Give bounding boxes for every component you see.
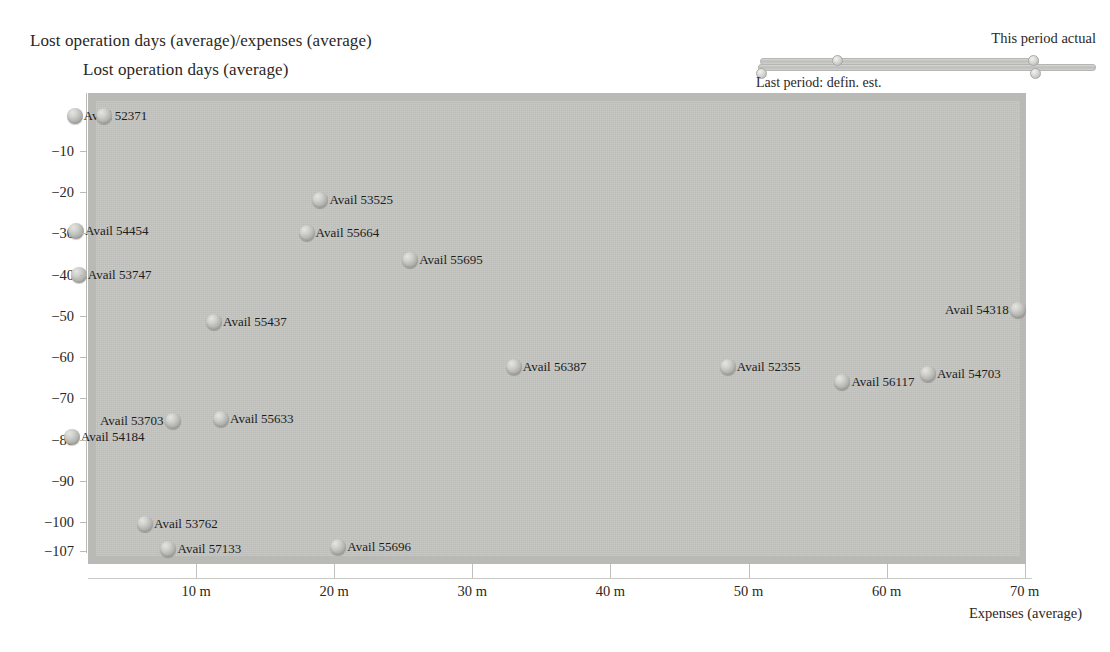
- scatter-point-label: Avail 53525: [329, 192, 393, 208]
- scatter-marker-icon: [96, 108, 112, 124]
- scatter-marker-icon: [402, 252, 418, 268]
- x-axis-tick-label: 40 m: [596, 583, 625, 600]
- scatter-point[interactable]: Avail 55437: [206, 314, 222, 330]
- scatter-marker-icon: [506, 359, 522, 375]
- scatter-marker-icon: [299, 225, 315, 241]
- x-axis-tick-label: 60 m: [872, 583, 901, 600]
- scatter-marker-icon: [67, 108, 83, 124]
- scatter-marker-icon: [137, 516, 153, 532]
- y-axis-tick-label: −90: [51, 472, 74, 489]
- x-axis-tick: [334, 564, 335, 578]
- chart-title: Lost operation days (average)/expenses (…: [30, 31, 372, 51]
- scatter-point[interactable]: Avail 56387: [506, 359, 522, 375]
- y-axis-tick: [80, 522, 87, 523]
- x-axis-tick: [196, 564, 197, 578]
- scatter-point-label: Avail 55437: [223, 314, 287, 330]
- scatter-point-label: Avail 52355: [737, 359, 801, 375]
- plot-area[interactable]: Avail 52371Avail 53525Avail 54454Avail 5…: [88, 93, 1026, 564]
- scatter-marker-icon: [920, 366, 936, 382]
- y-axis-tick: [80, 357, 87, 358]
- scatter-point-label: Avail 55633: [230, 411, 294, 427]
- scatter-marker-icon: [68, 223, 84, 239]
- scatter-marker-icon: [330, 539, 346, 555]
- scatter-point-label: Avail 52371: [84, 108, 148, 124]
- x-axis-tick: [749, 564, 750, 578]
- scatter-point[interactable]: Avail 53703: [165, 413, 181, 429]
- slider-handle-back-right[interactable]: [1030, 68, 1041, 79]
- slider-handle-front-right[interactable]: [1028, 55, 1039, 66]
- y-axis-line: [86, 93, 87, 553]
- scatter-point-label: Avail 56387: [523, 359, 587, 375]
- scatter-marker-icon: [720, 359, 736, 375]
- y-axis-tick: [80, 316, 87, 317]
- slider-track-last-period[interactable]: [758, 64, 1096, 71]
- scatter-point[interactable]: Avail 55695: [402, 252, 418, 268]
- scatter-marker-icon: [312, 192, 328, 208]
- y-axis-tick: [80, 398, 87, 399]
- y-axis-tick-label: −20: [51, 184, 74, 201]
- scatter-point-label: Avail 57133: [177, 541, 241, 557]
- x-axis-tick: [610, 564, 611, 578]
- scatter-marker-icon: [160, 541, 176, 557]
- legend-this-period-label: This period actual: [991, 30, 1096, 47]
- scatter-point[interactable]: Avail 57133: [160, 541, 176, 557]
- scatter-point[interactable]: Avail 52371: [67, 108, 83, 124]
- scatter-point-label: Avail 54703: [937, 366, 1001, 382]
- x-axis-tick-label: 30 m: [458, 583, 487, 600]
- x-axis-tick-label: 70 m: [1010, 583, 1039, 600]
- scatter-marker-icon: [213, 411, 229, 427]
- y-axis-tick-label: −100: [44, 514, 74, 531]
- period-slider-widget[interactable]: This period actual Last period: defin. e…: [752, 30, 1097, 92]
- scatter-point-label: Avail 54184: [81, 429, 145, 445]
- x-axis-tick-label: 20 m: [319, 583, 348, 600]
- y-axis-tick: [80, 440, 87, 441]
- scatter-point-label: Avail 55695: [419, 252, 483, 268]
- scatter-marker-icon: [834, 374, 850, 390]
- scatter-point-label: Avail 55696: [347, 539, 411, 555]
- y-axis-tick: [80, 233, 87, 234]
- x-axis-tick: [887, 564, 888, 578]
- x-axis-line: [88, 578, 1032, 579]
- y-axis-tick: [80, 275, 87, 276]
- scatter-marker-icon: [1010, 302, 1026, 318]
- y-axis-tick: [80, 192, 87, 193]
- scatter-point-label: Avail 53762: [154, 516, 218, 532]
- x-axis-title: Expenses (average): [969, 605, 1082, 622]
- y-axis-tick: [80, 551, 87, 552]
- scatter-point-label: Avail 55664: [316, 225, 380, 241]
- scatter-marker-icon: [165, 413, 181, 429]
- scatter-point[interactable]: Avail 52355: [720, 359, 736, 375]
- scatter-point[interactable]: Avail 54454: [68, 223, 84, 239]
- scatter-point[interactable]: Avail 54318: [1010, 302, 1026, 318]
- x-axis-tick: [1025, 564, 1026, 578]
- scatter-marker-icon: [206, 314, 222, 330]
- y-axis-tick-label: −70: [51, 390, 74, 407]
- scatter-point[interactable]: [96, 108, 112, 124]
- y-axis-tick-label: −50: [51, 307, 74, 324]
- scatter-point-label: Avail 53703: [100, 413, 164, 429]
- y-axis-tick: [80, 481, 87, 482]
- scatter-point[interactable]: Avail 55664: [299, 225, 315, 241]
- scatter-point[interactable]: Avail 55696: [330, 539, 346, 555]
- scatter-point[interactable]: Avail 54184: [64, 429, 80, 445]
- scatter-marker-icon: [64, 429, 80, 445]
- scatter-point[interactable]: Avail 56117: [834, 374, 850, 390]
- scatter-point[interactable]: Avail 53762: [137, 516, 153, 532]
- legend-last-period-label: Last period: defin. est.: [756, 75, 882, 91]
- slider-handle-front-left[interactable]: [832, 55, 843, 66]
- slider-track-this-period[interactable]: [760, 58, 1039, 65]
- scatter-point-label: Avail 54318: [945, 302, 1009, 318]
- y-axis-tick-label: −107: [44, 542, 74, 559]
- x-axis-tick-label: 10 m: [181, 583, 210, 600]
- scatter-point[interactable]: Avail 53525: [312, 192, 328, 208]
- x-axis-tick-label: 50 m: [734, 583, 763, 600]
- y-axis-tick-label: −60: [51, 349, 74, 366]
- y-axis-tick-label: −10: [51, 142, 74, 159]
- scatter-point-label: Avail 56117: [851, 374, 914, 390]
- x-axis-tick: [472, 564, 473, 578]
- chart-subtitle: Lost operation days (average): [83, 60, 288, 80]
- scatter-point-label: Avail 53747: [88, 267, 152, 283]
- scatter-point[interactable]: Avail 54703: [920, 366, 936, 382]
- scatter-point[interactable]: Avail 55633: [213, 411, 229, 427]
- y-axis-tick: [80, 151, 87, 152]
